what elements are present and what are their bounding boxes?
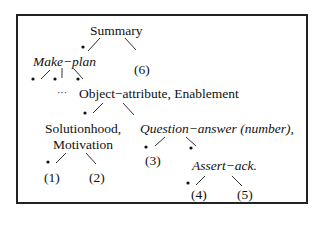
leaf-4: (4) bbox=[191, 187, 207, 202]
node-solutionhood: Solutionhood, bbox=[44, 121, 122, 136]
node-summary: Summary bbox=[90, 23, 143, 38]
node-question-answer: Question−answer (number), bbox=[140, 121, 294, 136]
leaf-5: (5) bbox=[237, 187, 253, 202]
leaf-1: (1) bbox=[44, 170, 60, 185]
node-object-attribute-enablement: Object−attribute, Enablement bbox=[79, 86, 239, 101]
node-make-plan: Make−plan bbox=[33, 54, 96, 69]
ellipsis: ··· bbox=[57, 85, 67, 100]
leaf-3: (3) bbox=[145, 153, 161, 168]
node-motivation: Motivation bbox=[44, 137, 122, 152]
node-assert-ack: Assert−ack. bbox=[192, 158, 257, 173]
leaf-6: (6) bbox=[134, 62, 150, 77]
leaf-2: (2) bbox=[89, 170, 105, 185]
